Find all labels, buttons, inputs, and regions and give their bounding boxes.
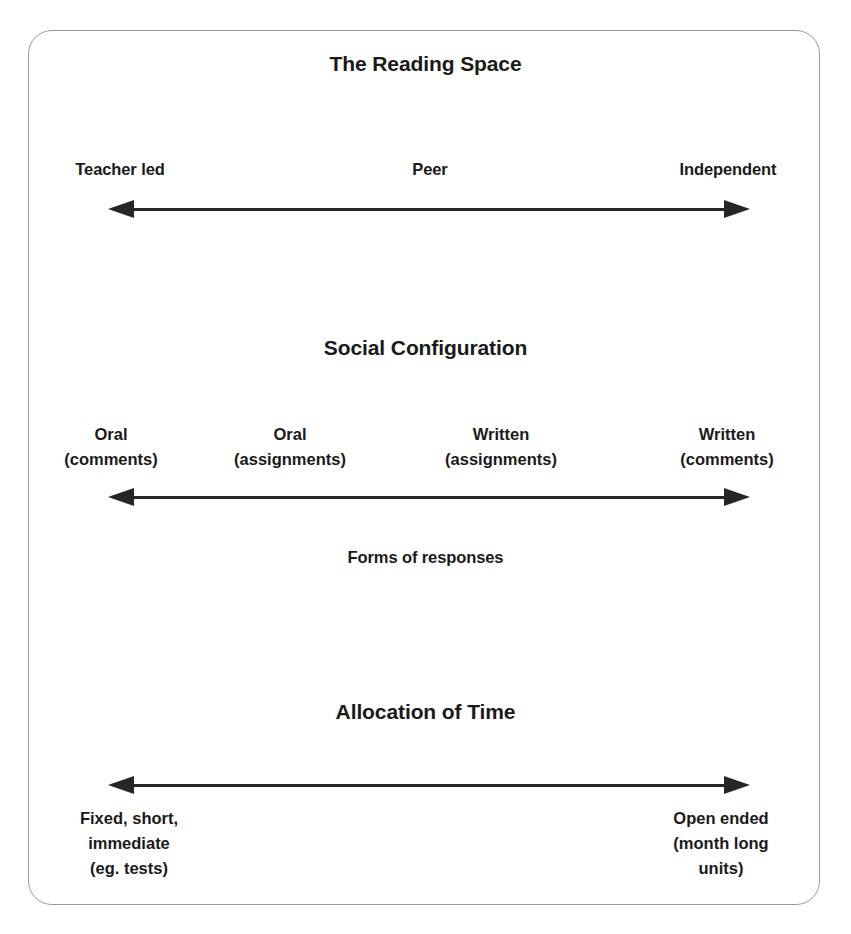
arrow-shaft <box>122 496 736 499</box>
axis-label-oral-assignments: Oral (assignments) <box>208 422 372 472</box>
axis-label-written-assignments: Written (assignments) <box>410 422 592 472</box>
double-arrow-icon-social-configuration <box>108 486 750 508</box>
axis-label-oral-comments: Oral (comments) <box>38 422 184 472</box>
axis-label-independent: Independent <box>648 160 808 179</box>
axis-label-peer: Peer <box>370 160 490 179</box>
arrowhead-right-icon <box>724 776 750 794</box>
arrowhead-right-icon <box>724 200 750 218</box>
arrow-shaft <box>122 208 736 211</box>
axis-label-fixed-short-immediate: Fixed, short, immediate (eg. tests) <box>44 806 214 881</box>
diagram-root: The Reading Space Teacher led Peer Indep… <box>0 0 851 934</box>
section-title-allocation-of-time: Allocation of Time <box>0 700 851 724</box>
axis-label-teacher-led: Teacher led <box>38 160 202 179</box>
axis-label-open-ended: Open ended (month long units) <box>636 806 806 881</box>
axis-label-written-comments: Written (comments) <box>648 422 806 472</box>
arrowhead-right-icon <box>724 488 750 506</box>
arrow-shaft <box>122 784 736 787</box>
caption-forms-of-responses: Forms of responses <box>0 548 851 567</box>
section-title-reading-space: The Reading Space <box>0 52 851 76</box>
double-arrow-icon-reading-space <box>108 198 750 220</box>
section-title-social-configuration: Social Configuration <box>0 336 851 360</box>
double-arrow-icon-allocation-of-time <box>108 774 750 796</box>
